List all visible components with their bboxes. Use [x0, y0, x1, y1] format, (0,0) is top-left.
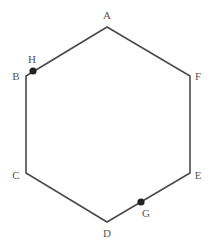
vertex-label-f: F	[195, 70, 201, 82]
point-label-h: H	[28, 53, 36, 65]
point-h-dot	[29, 67, 36, 74]
vertex-label-e: E	[195, 169, 202, 181]
vertex-label-c: C	[12, 169, 19, 181]
vertex-label-a: A	[103, 9, 111, 21]
point-g-dot	[137, 198, 144, 205]
point-label-g: G	[142, 207, 150, 219]
vertex-label-d: D	[103, 227, 111, 239]
hexagon-diagram: A B C D E F H G	[0, 0, 213, 246]
vertex-label-b: B	[12, 70, 19, 82]
hexagon-outline	[26, 27, 190, 222]
